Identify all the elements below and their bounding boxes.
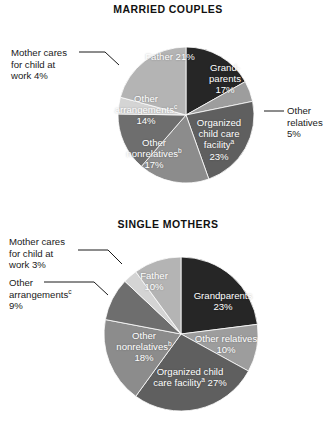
callout-mother-cares-married: Mother cares for child at work 4% xyxy=(11,47,97,82)
callout-other-arrangements-single: Other arrangementsc 9% xyxy=(9,277,99,312)
pie-married-couples xyxy=(117,46,255,184)
pie-svg-single xyxy=(103,256,259,412)
leader-line-other-relatives-married xyxy=(264,106,286,116)
pie-slice xyxy=(181,257,257,334)
callout-line-1: Mother cares xyxy=(11,47,97,59)
footnote-marker-c: c xyxy=(68,287,71,294)
chart-single-mothers: SINGLE MOTHERS Mother cares for child at… xyxy=(0,215,336,441)
callout-line-1: Other xyxy=(287,105,335,117)
chart-title-single: SINGLE MOTHERS xyxy=(0,218,336,230)
callout-mother-cares-single: Mother cares for child at work 3% xyxy=(9,236,95,271)
callout-other-relatives-married: Other relatives 5% xyxy=(287,105,335,140)
callout-line-3: 5% xyxy=(287,128,335,140)
callout-line-2: relatives xyxy=(287,117,335,129)
callout-line-3: work 4% xyxy=(11,70,97,82)
chart-married-couples: MARRIED COUPLES Mother cares for child a… xyxy=(0,0,336,215)
pie-single-mothers xyxy=(103,256,259,412)
pie-svg-married xyxy=(117,46,255,184)
callout-line-2: for child at xyxy=(11,59,97,71)
chart-title-married: MARRIED COUPLES xyxy=(0,3,336,15)
